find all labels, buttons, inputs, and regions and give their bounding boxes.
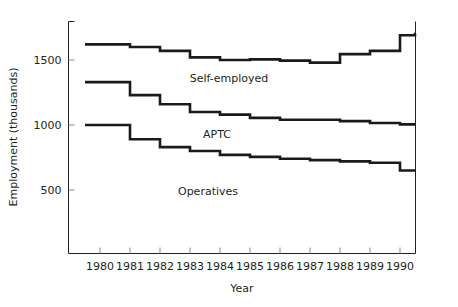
x-axis-ticks: 1980198119821983198419851986198719881989… [86, 248, 414, 273]
chart-axes [69, 22, 416, 254]
x-tick-label: 1984 [206, 260, 234, 273]
step-chart: 50010001500 1980198119821983198419851986… [0, 0, 458, 307]
x-tick-label: 1983 [176, 260, 204, 273]
x-tick-label: 1990 [386, 260, 414, 273]
x-axis-title: Year [229, 282, 254, 295]
y-tick-label: 500 [41, 184, 62, 197]
x-tick-label: 1982 [146, 260, 174, 273]
chart-series-group [85, 34, 416, 171]
series-line-aptc [85, 82, 416, 124]
x-tick-label: 1988 [326, 260, 354, 273]
series-annotation-aptc: APTC [203, 128, 231, 141]
series-line-operatives [85, 125, 416, 171]
series-annotation-operatives: Operatives [178, 185, 238, 198]
x-tick-label: 1980 [86, 260, 114, 273]
y-tick-label: 1500 [34, 54, 62, 67]
series-annotation-self-employed: Self-employed [190, 72, 269, 85]
chart-container: 50010001500 1980198119821983198419851986… [0, 0, 458, 307]
series-annotations: Self-employedAPTCOperatives [178, 72, 268, 198]
x-tick-label: 1989 [356, 260, 384, 273]
y-tick-label: 1000 [34, 119, 62, 132]
y-axis-title: Employment (thousands) [7, 68, 20, 207]
x-tick-label: 1981 [116, 260, 144, 273]
series-line-self-employed [85, 34, 416, 63]
x-tick-label: 1985 [236, 260, 264, 273]
x-tick-label: 1987 [296, 260, 324, 273]
x-tick-label: 1986 [266, 260, 294, 273]
